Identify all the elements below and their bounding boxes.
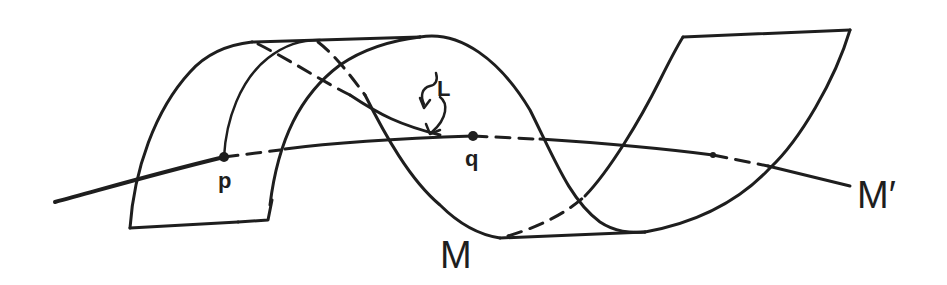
label-l: L <box>437 76 450 101</box>
diagram-canvas: p q L M M′ <box>0 0 947 285</box>
label-p: p <box>218 168 231 193</box>
label-q: q <box>465 146 478 171</box>
surface-m-left-sheet <box>130 37 420 228</box>
surface-m-right-sheet <box>585 30 850 232</box>
hidden-edges-left <box>258 42 365 95</box>
label-m-prime: M′ <box>857 174 896 216</box>
end-mark-dot <box>710 152 716 158</box>
point-q-dot <box>468 131 478 141</box>
hidden-edge-trough <box>508 196 585 236</box>
arrow-head-upper-icon <box>420 98 430 108</box>
label-m: M <box>440 234 472 276</box>
curve-m-prime <box>55 136 850 202</box>
point-p-dot <box>219 152 229 162</box>
